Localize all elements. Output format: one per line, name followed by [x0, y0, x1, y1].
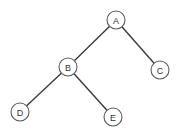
- node-b: B: [59, 58, 77, 76]
- edge-b-d: [20, 67, 68, 112]
- node-c-label: C: [157, 66, 164, 76]
- edge-b-e: [68, 67, 113, 117]
- node-c: C: [151, 61, 169, 79]
- edge-a-c: [116, 20, 160, 70]
- tree-diagram: A B C D E: [0, 0, 182, 130]
- edge-a-b: [68, 20, 116, 67]
- nodes: A B C D E: [11, 11, 169, 126]
- node-e-label: E: [110, 113, 116, 123]
- node-d-label: D: [17, 108, 24, 118]
- node-d: D: [11, 103, 29, 121]
- node-a-label: A: [113, 16, 119, 26]
- edges: [20, 20, 160, 117]
- node-a: A: [107, 11, 125, 29]
- node-e: E: [104, 108, 122, 126]
- node-b-label: B: [65, 63, 71, 73]
